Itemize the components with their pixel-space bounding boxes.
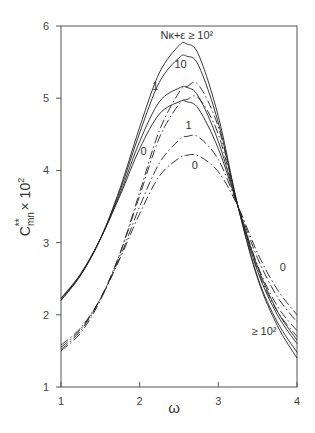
y-tick-label: 2 (43, 309, 49, 321)
y-tick-label: 5 (43, 92, 49, 104)
y-tick-label: 1 (43, 381, 49, 393)
curve-series (61, 42, 297, 358)
line-chart: 123456 1234 Nκ+ε ≥ 10²1010100≥ 10² ω Cmn… (0, 0, 315, 433)
curve-solid-3 (61, 101, 297, 341)
curve-annotation: 0 (141, 145, 147, 157)
x-axis-label: ω (168, 399, 180, 416)
x-tick-label: 2 (137, 395, 143, 407)
curve-dashdot-6 (61, 135, 297, 347)
y-axis-ticks: 123456 (43, 20, 61, 393)
curve-annotations: Nκ+ε ≥ 10²1010100≥ 10² (141, 29, 286, 337)
y-tick-label: 3 (43, 237, 49, 249)
y-axis-label: Cmn** × 102 (14, 178, 36, 236)
curve-dashdot-4 (61, 82, 297, 351)
curve-annotation: Nκ+ε ≥ 10² (160, 29, 213, 41)
x-tick-label: 4 (294, 395, 300, 407)
curve-dashdot-7 (61, 154, 297, 345)
svg-text:Cmn** × 102: Cmn** × 102 (14, 178, 36, 236)
curve-annotation: 0 (280, 261, 286, 273)
curve-annotation: 1 (185, 119, 191, 131)
curve-solid-0 (61, 42, 297, 358)
y-tick-label: 6 (43, 20, 49, 32)
y-tick-label: 4 (43, 164, 49, 176)
curve-annotation: 1 (152, 80, 158, 92)
curve-dashdot-5 (61, 96, 297, 350)
curve-annotation: ≥ 10² (251, 325, 276, 337)
x-tick-label: 3 (215, 395, 221, 407)
curve-annotation: 10 (174, 58, 186, 70)
curve-annotation: 0 (192, 159, 198, 171)
x-tick-label: 1 (58, 395, 64, 407)
